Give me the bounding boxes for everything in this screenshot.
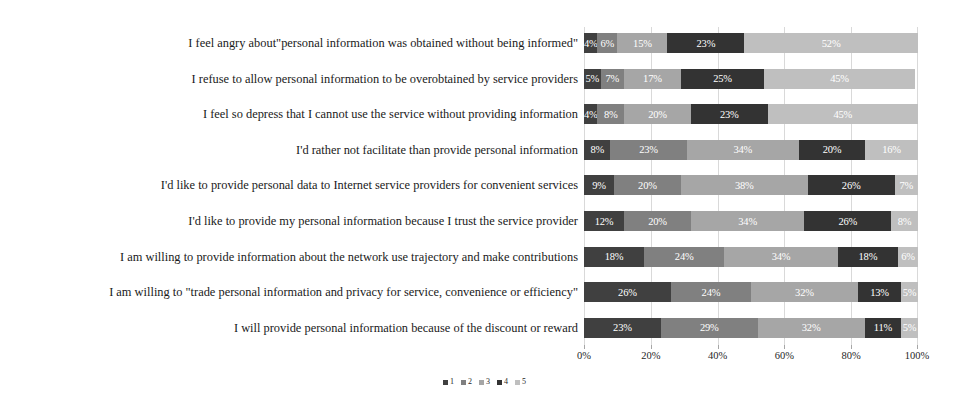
segment-value-label: 17% [643, 73, 662, 84]
bar-segment-series-4: 26% [804, 211, 891, 231]
segment-value-label: 7% [899, 180, 913, 191]
legend-item-4[interactable]: 4 [497, 378, 508, 386]
segment-value-label: 26% [842, 180, 861, 191]
category-label: I'd like to provide personal data to Int… [161, 175, 578, 195]
legend-item-1[interactable]: 1 [443, 378, 454, 386]
x-tick-label: 20% [641, 350, 660, 361]
bar-segment-series-5: 52% [744, 33, 918, 53]
legend-swatch-icon [497, 380, 502, 385]
segment-value-label: 16% [882, 144, 901, 155]
bar-segment-series-2: 29% [661, 318, 758, 338]
segment-value-label: 5% [903, 287, 917, 298]
category-axis-labels: I feel angry about"personal information … [0, 27, 578, 345]
bar-segment-series-2: 6% [597, 33, 617, 53]
bar-segment-series-1: 5% [584, 69, 601, 89]
x-tick-label: 80% [842, 350, 861, 361]
segment-value-label: 29% [700, 322, 719, 333]
bar-segment-series-4: 20% [799, 140, 865, 160]
bar-segment-series-5: 6% [898, 247, 918, 267]
x-axis: 0%20%40%60%80%100% [584, 345, 918, 365]
bar-segment-series-2: 8% [597, 104, 624, 124]
x-tick-label: 40% [708, 350, 727, 361]
bar-row: 9%20%38%26%7% [584, 175, 918, 195]
bar-segment-series-1: 8% [584, 140, 610, 160]
category-label: I am willing to provide information abou… [120, 247, 578, 267]
bar-segment-series-4: 18% [838, 247, 898, 267]
bar-row: 26%24%32%13%5% [584, 282, 918, 302]
category-label: I feel angry about"personal information … [188, 33, 578, 53]
bar-segment-series-1: 12% [584, 211, 624, 231]
segment-value-label: 20% [648, 216, 667, 227]
legend-item-5[interactable]: 5 [515, 378, 526, 386]
category-label: I am willing to "trade personal informat… [109, 282, 578, 302]
bar-rows: 4%6%15%23%52%5%7%17%25%45%4%8%20%23%45%8… [584, 27, 918, 345]
bar-segment-series-5: 5% [901, 318, 918, 338]
segment-value-label: 34% [733, 144, 752, 155]
legend-label: 3 [486, 378, 490, 386]
x-tick-mark [651, 345, 652, 349]
chart-legend: 12345 [0, 378, 969, 386]
x-tick-mark [718, 345, 719, 349]
legend-label: 1 [450, 378, 454, 386]
segment-value-label: 9% [592, 180, 606, 191]
bar-segment-series-1: 4% [584, 104, 597, 124]
segment-value-label: 11% [874, 322, 892, 333]
segment-value-label: 5% [903, 322, 917, 333]
segment-value-label: 4% [584, 38, 597, 49]
segment-value-label: 4% [584, 109, 597, 120]
bar-segment-series-5: 16% [865, 140, 918, 160]
segment-value-label: 23% [613, 322, 632, 333]
segment-value-label: 20% [823, 144, 842, 155]
legend-label: 2 [468, 378, 472, 386]
bar-segment-series-2: 24% [671, 282, 751, 302]
bar-segment-series-4: 13% [858, 282, 901, 302]
bar-segment-series-1: 4% [584, 33, 597, 53]
segment-value-label: 12% [595, 216, 614, 227]
stacked-bar-chart: I feel angry about"personal information … [0, 0, 969, 414]
segment-value-label: 8% [604, 109, 618, 120]
segment-value-label: 23% [720, 109, 739, 120]
segment-value-label: 25% [713, 73, 732, 84]
bar-segment-series-3: 17% [624, 69, 681, 89]
segment-value-label: 20% [638, 180, 657, 191]
segment-value-label: 24% [702, 287, 721, 298]
bar-segment-series-2: 24% [644, 247, 724, 267]
segment-value-label: 24% [675, 251, 694, 262]
legend-item-2[interactable]: 2 [461, 378, 472, 386]
bar-segment-series-2: 7% [601, 69, 624, 89]
bar-segment-series-2: 23% [610, 140, 686, 160]
bar-segment-series-1: 23% [584, 318, 661, 338]
bar-segment-series-4: 23% [691, 104, 768, 124]
bar-segment-series-3: 32% [758, 318, 865, 338]
category-label: I will provide personal information beca… [234, 318, 578, 338]
bar-segment-series-3: 20% [624, 104, 691, 124]
segment-value-label: 18% [859, 251, 878, 262]
bar-segment-series-4: 25% [681, 69, 765, 89]
segment-value-label: 7% [606, 73, 620, 84]
segment-value-label: 34% [738, 216, 757, 227]
segment-value-label: 23% [639, 144, 658, 155]
x-tick-label: 60% [775, 350, 794, 361]
bar-segment-series-4: 26% [808, 175, 895, 195]
segment-value-label: 6% [601, 38, 615, 49]
legend-label: 4 [504, 378, 508, 386]
segment-value-label: 32% [795, 287, 814, 298]
bar-segment-series-1: 9% [584, 175, 614, 195]
bar-row: 4%6%15%23%52% [584, 33, 918, 53]
legend-label: 5 [522, 378, 526, 386]
bar-segment-series-4: 23% [667, 33, 744, 53]
x-tick-mark [784, 345, 785, 349]
legend-item-3[interactable]: 3 [479, 378, 490, 386]
x-tick-mark [851, 345, 852, 349]
segment-value-label: 26% [618, 287, 637, 298]
bar-segment-series-1: 18% [584, 247, 644, 267]
x-tick-mark [917, 345, 918, 349]
x-tick-mark [584, 345, 585, 349]
segment-value-label: 23% [697, 38, 716, 49]
bar-segment-series-3: 34% [691, 211, 805, 231]
legend-swatch-icon [443, 380, 448, 385]
segment-value-label: 38% [735, 180, 754, 191]
bar-segment-series-4: 11% [865, 318, 902, 338]
segment-value-label: 26% [839, 216, 858, 227]
category-label: I refuse to allow personal information t… [192, 69, 578, 89]
